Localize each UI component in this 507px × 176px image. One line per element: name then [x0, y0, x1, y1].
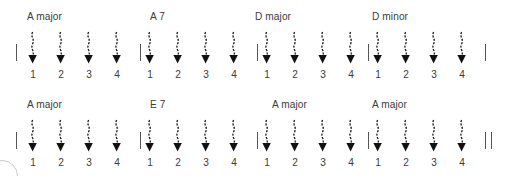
strumming-pattern-sheet: A major1234A 71234D major1234D minor1234… [0, 0, 507, 176]
beat-number: 3 [83, 156, 96, 168]
beat-number: 1 [372, 156, 385, 168]
down-strum-arrow-icon [289, 119, 300, 153]
beat-number: 4 [228, 156, 241, 168]
barline-end-double [485, 132, 492, 149]
barline-measure-3 [368, 132, 369, 149]
beat-number: 3 [83, 68, 96, 80]
beat-number: 3 [317, 156, 330, 168]
beat-number: 4 [228, 68, 241, 80]
chord-label: D major [255, 10, 291, 22]
down-strum-arrow-icon [83, 31, 94, 65]
beat-number: 4 [111, 156, 124, 168]
down-strum-arrow-icon [200, 119, 211, 153]
down-strum-arrow-icon [172, 31, 183, 65]
beat-number: 1 [261, 156, 274, 168]
barline-measure-1 [140, 132, 141, 149]
chord-label: A major [27, 10, 62, 22]
down-strum-arrow-icon [400, 119, 411, 153]
beat-number: 4 [111, 68, 124, 80]
chord-label: E 7 [150, 98, 165, 110]
beat-number: 1 [261, 68, 274, 80]
beat-number: 1 [372, 68, 385, 80]
down-strum-arrow-icon [228, 119, 239, 153]
chord-label: A 7 [150, 10, 165, 22]
down-strum-arrow-icon [27, 119, 38, 153]
beat-number: 1 [27, 156, 40, 168]
down-strum-arrow-icon [111, 31, 122, 65]
down-strum-arrow-icon [317, 119, 328, 153]
beat-number: 2 [55, 68, 68, 80]
beat-number: 3 [200, 156, 213, 168]
beat-number: 2 [400, 156, 413, 168]
barline-measure-2 [257, 44, 258, 61]
beat-number: 1 [144, 68, 157, 80]
down-strum-arrow-icon [144, 31, 155, 65]
down-strum-arrow-icon [111, 119, 122, 153]
beat-number: 3 [317, 68, 330, 80]
beat-number: 2 [289, 156, 302, 168]
barline-measure-2 [257, 132, 258, 149]
down-strum-arrow-icon [228, 31, 239, 65]
down-strum-arrow-icon [83, 119, 94, 153]
down-strum-arrow-icon [27, 31, 38, 65]
beat-number: 2 [55, 156, 68, 168]
beat-number: 4 [345, 156, 358, 168]
barline-measure-1 [140, 44, 141, 61]
chord-label: A major [272, 98, 307, 110]
down-strum-arrow-icon [55, 119, 66, 153]
beat-number: 3 [428, 68, 441, 80]
down-strum-arrow-icon [400, 31, 411, 65]
beat-number: 2 [172, 156, 185, 168]
barline-start [16, 132, 17, 149]
down-strum-arrow-icon [345, 119, 356, 153]
beat-number: 3 [200, 68, 213, 80]
chord-label: A major [372, 98, 407, 110]
down-strum-arrow-icon [317, 31, 328, 65]
chord-label: A major [27, 98, 62, 110]
down-strum-arrow-icon [261, 119, 272, 153]
chord-label: D minor [372, 10, 408, 22]
beat-number: 4 [456, 68, 469, 80]
barline-start [16, 44, 17, 61]
beat-number: 3 [428, 156, 441, 168]
beat-number: 4 [345, 68, 358, 80]
beat-number: 2 [400, 68, 413, 80]
down-strum-arrow-icon [456, 119, 467, 153]
down-strum-arrow-icon [55, 31, 66, 65]
measure-row-2: A major1234E 71234A major1234A major1234 [0, 92, 507, 176]
beat-number: 2 [172, 68, 185, 80]
down-strum-arrow-icon [372, 31, 383, 65]
down-strum-arrow-icon [456, 31, 467, 65]
down-strum-arrow-icon [200, 31, 211, 65]
barline-measure-3 [368, 44, 369, 61]
barline-end-single [485, 44, 486, 61]
down-strum-arrow-icon [372, 119, 383, 153]
measure-row-1: A major1234A 71234D major1234D minor1234 [0, 4, 507, 88]
down-strum-arrow-icon [428, 119, 439, 153]
beat-number: 2 [289, 68, 302, 80]
down-strum-arrow-icon [289, 31, 300, 65]
beat-number: 1 [27, 68, 40, 80]
beat-number: 1 [144, 156, 157, 168]
down-strum-arrow-icon [172, 119, 183, 153]
beat-number: 4 [456, 156, 469, 168]
down-strum-arrow-icon [345, 31, 356, 65]
down-strum-arrow-icon [261, 31, 272, 65]
down-strum-arrow-icon [144, 119, 155, 153]
down-strum-arrow-icon [428, 31, 439, 65]
